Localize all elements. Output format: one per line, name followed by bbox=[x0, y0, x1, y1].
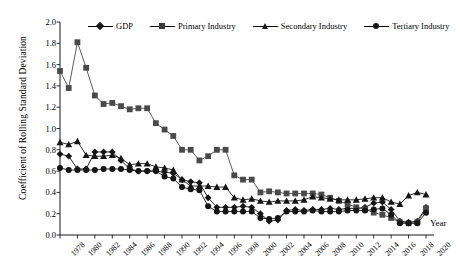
data-point-marker bbox=[240, 209, 246, 215]
legend-marker-diamond-icon bbox=[88, 21, 113, 31]
data-point-marker bbox=[135, 168, 141, 174]
data-point-marker bbox=[405, 192, 412, 198]
data-point-marker bbox=[345, 208, 351, 214]
data-point-marker bbox=[74, 167, 80, 173]
data-point-marker bbox=[327, 209, 333, 215]
data-point-marker bbox=[179, 184, 185, 190]
legend-item-tertiary-industry[interactable]: Tertiary Industry bbox=[364, 21, 449, 31]
data-point-marker bbox=[266, 188, 272, 194]
data-point-marker bbox=[214, 147, 220, 153]
data-point-marker bbox=[57, 68, 63, 74]
data-point-marker bbox=[144, 105, 150, 111]
data-point-marker bbox=[205, 153, 211, 159]
data-point-marker bbox=[66, 167, 72, 173]
legend-item-gdp[interactable]: GDP bbox=[88, 21, 133, 31]
data-point-marker bbox=[205, 203, 211, 209]
plot-area bbox=[0, 0, 460, 270]
data-point-marker bbox=[162, 173, 168, 179]
data-point-marker bbox=[74, 138, 81, 144]
data-point-marker bbox=[136, 105, 142, 111]
data-point-marker bbox=[292, 209, 298, 215]
data-point-marker bbox=[188, 186, 194, 192]
legend-label: Secondary Industry bbox=[281, 22, 347, 31]
legend-marker-circle-icon bbox=[364, 21, 389, 31]
data-point-marker bbox=[92, 93, 98, 99]
data-point-marker bbox=[258, 190, 264, 196]
data-point-marker bbox=[370, 200, 377, 207]
data-point-marker bbox=[57, 151, 64, 158]
data-point-marker bbox=[248, 195, 255, 201]
data-point-marker bbox=[249, 209, 255, 215]
data-point-marker bbox=[406, 220, 412, 226]
series-line bbox=[60, 141, 426, 204]
legend-label: Tertiary Industry bbox=[392, 22, 449, 31]
data-point-marker bbox=[118, 166, 124, 172]
legend-marker-square-icon bbox=[150, 21, 175, 31]
data-point-marker bbox=[162, 127, 168, 133]
legend-label: Primary Industry bbox=[178, 22, 236, 31]
data-point-marker bbox=[240, 177, 246, 183]
data-point-marker bbox=[318, 209, 324, 215]
data-point-marker bbox=[144, 168, 150, 174]
data-point-marker bbox=[380, 212, 386, 218]
data-point-marker bbox=[362, 208, 368, 214]
data-point-marker bbox=[223, 147, 229, 153]
data-point-marker bbox=[379, 205, 385, 211]
data-point-marker bbox=[423, 210, 429, 216]
data-point-marker bbox=[301, 196, 308, 202]
data-point-marker bbox=[170, 176, 176, 182]
data-point-marker bbox=[92, 167, 98, 173]
data-point-marker bbox=[284, 209, 290, 215]
data-point-marker bbox=[284, 191, 290, 197]
data-point-marker bbox=[83, 65, 89, 71]
chart-legend: GDPPrimary IndustrySecondary IndustryTer… bbox=[88, 19, 428, 33]
legend-item-primary-industry[interactable]: Primary Industry bbox=[150, 21, 236, 31]
data-point-marker bbox=[336, 209, 342, 215]
legend-item-secondary-industry[interactable]: Secondary Industry bbox=[253, 21, 347, 31]
data-point-marker bbox=[127, 106, 133, 112]
data-point-marker bbox=[188, 147, 194, 153]
data-point-marker bbox=[223, 209, 229, 215]
data-point-marker bbox=[275, 215, 281, 221]
data-point-marker bbox=[101, 101, 107, 107]
legend-label: GDP bbox=[116, 22, 133, 31]
data-point-marker bbox=[301, 209, 307, 215]
x-axis-title: Year bbox=[430, 218, 447, 228]
rolling-standard-deviation-line-chart: Coefficient of Rolling Standard Deviatio… bbox=[0, 0, 460, 270]
data-point-marker bbox=[388, 198, 395, 204]
data-point-marker bbox=[310, 208, 316, 214]
data-point-marker bbox=[301, 191, 307, 197]
data-point-marker bbox=[397, 220, 403, 226]
data-point-marker bbox=[109, 100, 115, 106]
data-point-marker bbox=[66, 85, 72, 91]
data-point-marker bbox=[353, 208, 359, 214]
data-point-marker bbox=[292, 191, 298, 197]
data-point-marker bbox=[388, 212, 394, 218]
data-point-marker bbox=[257, 215, 263, 221]
data-point-marker bbox=[414, 189, 421, 195]
data-point-marker bbox=[275, 190, 281, 196]
series-secondary-industry bbox=[57, 138, 430, 207]
data-point-marker bbox=[197, 158, 203, 164]
data-point-marker bbox=[57, 165, 63, 171]
data-point-marker bbox=[231, 172, 237, 178]
data-point-marker bbox=[371, 206, 377, 212]
data-point-marker bbox=[153, 120, 159, 126]
data-point-marker bbox=[57, 139, 64, 145]
data-point-marker bbox=[196, 187, 202, 193]
data-point-marker bbox=[249, 177, 255, 183]
data-point-marker bbox=[101, 166, 107, 172]
data-point-marker bbox=[118, 103, 124, 109]
data-point-marker bbox=[83, 167, 89, 173]
legend-marker-triangle-icon bbox=[253, 21, 278, 31]
data-point-marker bbox=[414, 220, 420, 226]
series-line bbox=[60, 42, 426, 223]
data-point-marker bbox=[75, 39, 81, 45]
data-point-marker bbox=[83, 152, 90, 158]
data-point-marker bbox=[170, 133, 176, 139]
data-point-marker bbox=[153, 168, 159, 174]
data-point-marker bbox=[179, 147, 185, 153]
data-point-marker bbox=[266, 216, 272, 222]
data-point-marker bbox=[214, 209, 220, 215]
data-point-marker bbox=[109, 166, 115, 172]
